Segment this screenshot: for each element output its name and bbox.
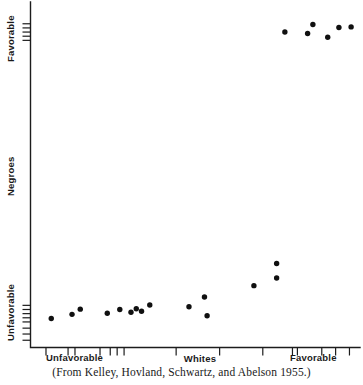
data-point <box>305 31 310 36</box>
data-point <box>49 316 54 321</box>
data-point <box>274 275 279 280</box>
x-axis-low-label: Unfavorable <box>46 352 103 363</box>
axes <box>31 2 361 348</box>
data-point <box>325 35 330 40</box>
data-point <box>204 313 209 318</box>
y-axis-title: Negroes <box>5 157 16 196</box>
data-point <box>78 306 83 311</box>
data-points <box>49 22 354 321</box>
data-point <box>274 261 279 266</box>
x-axis-title: Whites <box>184 353 216 364</box>
data-point <box>348 24 353 29</box>
data-point <box>202 294 207 299</box>
data-point <box>69 312 74 317</box>
data-point <box>336 25 341 30</box>
data-point <box>105 311 110 316</box>
x-axis-high-label: Favorable <box>290 352 337 363</box>
data-point <box>128 310 133 315</box>
figure-caption: (From Kelley, Hovland, Schwartz, and Abe… <box>0 366 363 378</box>
y-axis-high-label: Favorable <box>5 15 16 62</box>
y-axis-ticks <box>23 24 31 340</box>
axis-lines <box>31 2 361 348</box>
data-point <box>282 29 287 34</box>
scatter-figure: Favorable Negroes Unfavorable Unfavorabl… <box>0 0 363 385</box>
data-point <box>117 307 122 312</box>
y-axis-low-label: Unfavorable <box>5 284 16 341</box>
data-point <box>251 283 256 288</box>
data-point <box>139 309 144 314</box>
data-point <box>186 304 191 309</box>
scatter-plot-svg: Favorable Negroes Unfavorable Unfavorabl… <box>0 0 363 385</box>
data-point <box>134 306 139 311</box>
data-point <box>310 22 315 27</box>
data-point <box>147 302 152 307</box>
